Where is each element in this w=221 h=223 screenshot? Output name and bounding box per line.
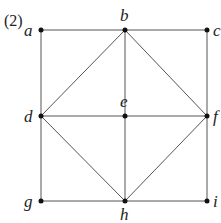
node-label-c: c — [213, 21, 221, 40]
node-i — [205, 199, 210, 204]
node-label-d: d — [24, 107, 33, 126]
node-c — [205, 28, 210, 33]
edge-d-h — [41, 116, 125, 201]
node-e — [123, 114, 128, 119]
node-label-b: b — [120, 6, 129, 25]
node-label-h: h — [120, 205, 129, 223]
edge-b-d — [41, 30, 125, 116]
node-b — [123, 28, 128, 33]
node-a — [39, 28, 44, 33]
graph-diagram: (2) abcdefghi — [0, 0, 221, 223]
node-label-a: a — [24, 21, 33, 40]
nodes: abcdefghi — [24, 6, 221, 223]
node-d — [39, 114, 44, 119]
node-label-f: f — [213, 107, 220, 126]
node-g — [39, 199, 44, 204]
node-label-e: e — [120, 92, 128, 111]
node-h — [123, 199, 128, 204]
edge-f-h — [125, 116, 207, 201]
figure-label: (2) — [4, 12, 23, 30]
node-label-i: i — [213, 192, 218, 211]
node-f — [205, 114, 210, 119]
edge-b-f — [125, 30, 207, 116]
node-label-g: g — [24, 192, 33, 211]
